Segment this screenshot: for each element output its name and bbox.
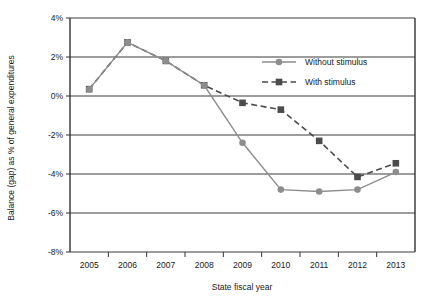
data-point-marker (354, 186, 361, 193)
y-tick-label: -4% (48, 169, 64, 179)
x-tick-label: 2008 (195, 260, 214, 270)
x-tick-label: 2006 (118, 260, 137, 270)
data-point-marker (163, 58, 170, 65)
data-point-marker (86, 86, 93, 93)
data-point-marker (354, 174, 361, 181)
data-point-marker (393, 160, 400, 167)
chart-container: 200520062007200820092010201120122013 4%2… (0, 0, 434, 298)
data-point-marker (316, 188, 323, 195)
y-tick-label: 2% (51, 52, 64, 62)
data-point-marker (124, 39, 131, 46)
data-point-marker (201, 82, 208, 89)
data-point-marker (239, 100, 246, 107)
legend-label: With stimulus (305, 77, 356, 87)
data-point-marker (393, 169, 400, 176)
y-tick-label: 4% (51, 13, 64, 23)
x-tick-label: 2005 (80, 260, 99, 270)
y-tick-label: -6% (48, 208, 64, 218)
x-axis-title: State fiscal year (212, 282, 273, 292)
y-tick-label: -2% (48, 130, 64, 140)
legend-label: Without stimulus (305, 57, 367, 67)
x-tick-label: 2013 (386, 260, 405, 270)
data-point-marker (239, 140, 246, 147)
x-tick-label: 2011 (310, 260, 329, 270)
data-point-marker (278, 186, 285, 193)
data-point-marker (278, 106, 285, 113)
legend-marker-sample (276, 79, 283, 86)
data-point-marker (316, 138, 323, 145)
legend-marker-sample (276, 59, 283, 66)
line-chart: 200520062007200820092010201120122013 4%2… (0, 0, 434, 298)
x-tick-label: 2009 (233, 260, 252, 270)
y-tick-label: 0% (51, 91, 64, 101)
y-axis-title: Balance (gap) as % of general expenditur… (6, 55, 16, 220)
x-tick-label: 2007 (156, 260, 175, 270)
y-tick-label: -8% (48, 247, 64, 257)
x-tick-label: 2010 (271, 260, 290, 270)
chart-background (0, 0, 434, 298)
x-tick-label: 2012 (348, 260, 367, 270)
